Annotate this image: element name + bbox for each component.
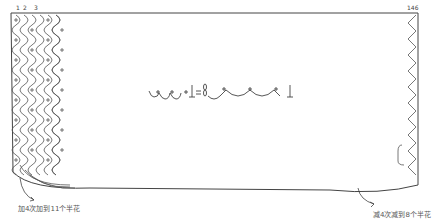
annotation-decrease: 减4次减到8个半花: [373, 209, 431, 219]
column-number-1: 1: [16, 4, 20, 11]
chart-outline: [11, 13, 418, 192]
mesh-pattern-right: [398, 15, 416, 175]
annotation-increase: 加4次加到11个半花: [18, 203, 80, 213]
column-number-2: 2: [23, 4, 27, 11]
column-number-3: 3: [34, 4, 38, 11]
stitch-legend: [149, 84, 293, 99]
mesh-pattern-left: [12, 15, 75, 188]
column-number-last: 146: [407, 4, 418, 11]
arrow-right: [358, 188, 374, 204]
stitch-plus-marks: [14, 18, 64, 162]
crochet-chart: [0, 0, 442, 222]
